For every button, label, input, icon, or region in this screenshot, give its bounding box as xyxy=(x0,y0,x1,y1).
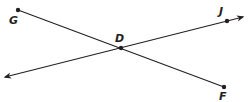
point-g xyxy=(16,8,20,12)
label-d: D xyxy=(115,32,124,45)
geometry-diagram: G D F J xyxy=(0,0,250,102)
line-dj xyxy=(5,17,243,77)
label-f: F xyxy=(219,90,227,102)
point-j xyxy=(225,19,229,23)
label-j: J xyxy=(217,5,223,18)
point-d xyxy=(119,46,123,50)
point-f xyxy=(222,85,226,89)
label-g: G xyxy=(9,14,18,27)
